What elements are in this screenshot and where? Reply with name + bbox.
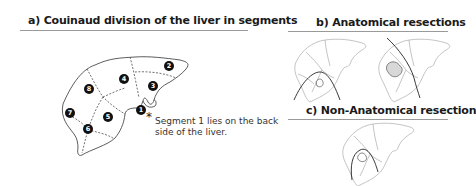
non-anatomical-resection [343,123,414,186]
segment-1-note-line2: side of the liver. [155,127,278,138]
couinaud-liver [62,57,188,156]
segment-1-note-line1: Segment 1 lies on the back [155,116,278,127]
footnote-asterisk: * [146,110,152,124]
svg-text:3: 3 [151,82,156,90]
segment-badge-8: 8 [84,84,94,94]
svg-text:6: 6 [86,125,91,133]
anatomical-resection-left [294,39,366,102]
segment-badge-2: 2 [164,61,174,71]
segment-badge-7: 7 [65,108,75,118]
svg-text:4: 4 [122,75,127,83]
svg-text:1: 1 [139,106,144,114]
svg-text:2: 2 [167,62,172,70]
segment-badge-3: 3 [148,81,158,91]
segment-badge-5: 5 [103,112,113,122]
svg-text:5: 5 [106,113,111,121]
segment-badge-4: 4 [119,74,129,84]
segment-badge-6: 6 [83,124,93,134]
segment-dividers [66,57,176,153]
svg-text:8: 8 [87,85,92,93]
svg-text:7: 7 [68,109,73,117]
anatomical-resection-right [379,38,450,102]
segment-badge-1: 1 [136,105,146,115]
segment-1-note: Segment 1 lies on the back side of the l… [155,116,278,138]
